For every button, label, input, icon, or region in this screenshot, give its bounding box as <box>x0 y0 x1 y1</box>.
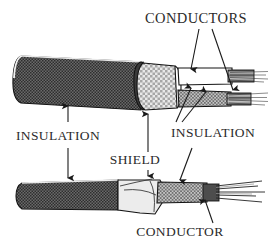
label-insulation-left: INSULATION <box>16 128 100 143</box>
label-insulation-right: INSULATION <box>171 125 255 140</box>
label-conductors: CONDUCTORS <box>145 10 247 26</box>
upper-inner-insulation-top <box>178 68 232 85</box>
lower-outer-insulation <box>16 180 118 210</box>
label-conductor: CONDUCTOR <box>136 224 223 239</box>
upper-outer-insulation <box>13 56 143 110</box>
cable-construction-diagram: CONDUCTORS INSULATION INSULATION SHIELD … <box>0 0 269 246</box>
lower-inner-insulation <box>157 182 207 203</box>
upper-braided-shield <box>137 63 177 110</box>
label-shield: SHIELD <box>110 152 160 167</box>
